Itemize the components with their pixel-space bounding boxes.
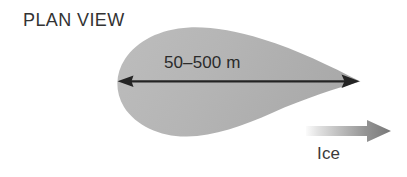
ice-flow-gradient-arrow [306,120,391,142]
ice-flow-label: Ice [317,145,340,162]
plan-view-figure: PLAN VIEW 50–500 m Ice [0,0,407,177]
length-dimension-label: 50–500 m [164,54,240,71]
plan-view-title: PLAN VIEW [23,11,125,29]
